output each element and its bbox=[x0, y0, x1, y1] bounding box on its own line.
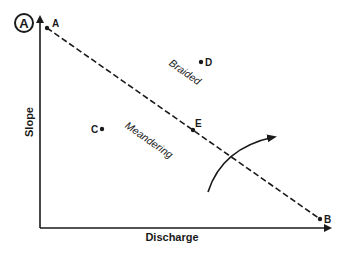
point-c-label: C bbox=[91, 124, 98, 135]
point-d-label: D bbox=[205, 57, 212, 68]
point-e-label: E bbox=[195, 118, 202, 129]
point-b: B bbox=[318, 214, 331, 225]
x-axis-label: Discharge bbox=[145, 231, 198, 243]
point-b-label: B bbox=[324, 214, 331, 225]
point-a-label: A bbox=[52, 18, 59, 29]
point-c: C bbox=[91, 124, 104, 135]
point-e: E bbox=[191, 118, 202, 132]
panel-label: A bbox=[15, 14, 33, 32]
threshold-line bbox=[47, 28, 320, 219]
y-axis-label: Slope bbox=[23, 107, 35, 137]
region-meandering-label: Meandering bbox=[123, 119, 175, 161]
channel-pattern-diagram: A Slope Discharge A B C D E Braided Mean… bbox=[0, 0, 347, 253]
point-a: A bbox=[45, 18, 59, 30]
point-d: D bbox=[199, 57, 212, 68]
panel-label-text: A bbox=[19, 16, 29, 31]
region-braided-label: Braided bbox=[167, 56, 204, 87]
